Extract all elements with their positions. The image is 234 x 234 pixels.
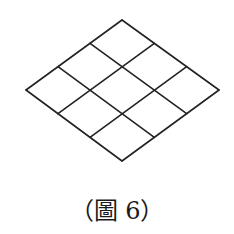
figure-caption: （圖 6）: [0, 196, 234, 226]
rhombus-edge: [26, 90, 122, 161]
rhombus-edge: [122, 90, 219, 161]
grid-line: [90, 43, 187, 113]
grid-line: [58, 43, 154, 113]
rhombus-edge: [122, 20, 219, 90]
rhombus-edge: [26, 20, 122, 90]
grid-line: [90, 67, 187, 138]
grid-line: [58, 67, 154, 138]
